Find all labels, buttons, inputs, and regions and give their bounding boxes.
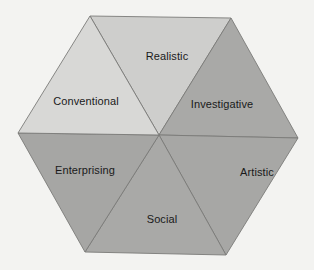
label-artistic: Artistic [240, 166, 274, 178]
label-social: Social [147, 213, 178, 225]
label-conventional: Conventional [53, 95, 118, 107]
label-realistic: Realistic [146, 50, 188, 62]
label-investigative: Investigative [191, 98, 253, 110]
hexagon-diagram [0, 0, 314, 270]
label-enterprising: Enterprising [55, 164, 115, 176]
